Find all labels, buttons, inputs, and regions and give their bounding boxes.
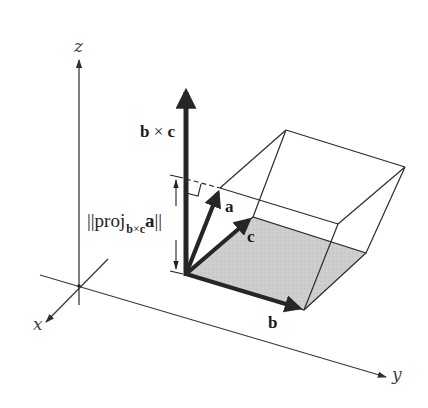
cross-operator: × — [154, 122, 164, 141]
cross-right: c — [168, 122, 176, 141]
proj-subscript: b×c — [126, 222, 145, 236]
proj-vector: a — [145, 210, 155, 231]
projection-norm-label: ||projb×ca|| — [87, 211, 162, 230]
vector-b-label: b — [268, 314, 277, 331]
projection-guide — [186, 179, 220, 196]
z-axis-label: z — [74, 38, 83, 55]
vector-c-label: c — [247, 228, 255, 245]
vector-a-label: a — [225, 198, 234, 215]
x-axis — [46, 259, 108, 322]
parallelepiped-diagram — [0, 0, 428, 408]
cross-product-label: b × c — [140, 123, 175, 140]
cross-left: b — [140, 122, 149, 141]
projection-dashed-line — [186, 179, 220, 188]
origin-point — [77, 284, 81, 288]
height-dimension — [170, 175, 183, 274]
proj-word: proj — [95, 210, 126, 231]
y-axis — [40, 275, 386, 377]
y-axis-label: y — [392, 366, 402, 383]
base-face-b-c — [186, 217, 366, 310]
x-axis-label: x — [33, 316, 43, 333]
